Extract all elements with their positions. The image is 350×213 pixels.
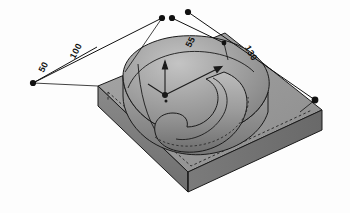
handle-top-100	[159, 15, 165, 21]
cad-viewport[interactable]: 50 100 55 130	[0, 0, 350, 213]
origin-point-lower	[165, 100, 168, 103]
handle-top-55-left	[169, 15, 175, 21]
cad-model-drawing[interactable]	[0, 0, 350, 213]
handle-top-130	[185, 9, 191, 15]
handle-55-mid	[222, 41, 227, 46]
origin-point	[163, 93, 168, 98]
handle-right	[312, 97, 319, 104]
handle-left	[30, 80, 36, 86]
extension-left-plate	[33, 83, 98, 86]
